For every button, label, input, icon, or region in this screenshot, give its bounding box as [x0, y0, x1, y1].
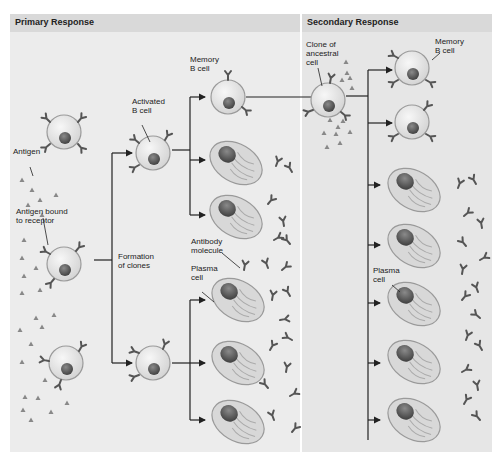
- memory-b-cell-secondary-label: Memory B cell: [435, 37, 464, 55]
- memory-b-cell-primary-label: Memory B cell: [190, 55, 219, 73]
- antigen-bound-b-cell: [41, 242, 84, 288]
- activated-b-cell-top: [130, 131, 172, 172]
- plasma-cell-secondary-label: Plasma cell: [373, 266, 400, 284]
- antibody-molecule-label: Antibody molecule: [191, 237, 223, 255]
- secondary-plasma-cell-4: [380, 332, 447, 393]
- clone-of-ancestral-cell-label: Clone of ancestral cell: [306, 40, 338, 67]
- antigen-label: Antigen: [13, 147, 40, 156]
- secondary-plasma-cell-1: [380, 160, 447, 221]
- plasma-cell-5: [204, 392, 271, 453]
- b-cell-response-diagram: [0, 0, 501, 458]
- plasma-cell-primary-label: Plasma cell: [191, 264, 218, 282]
- naive-b-cell-bottom: [40, 342, 86, 390]
- antibody-molecules-secondary: [455, 175, 489, 422]
- activated-b-cell-label: Activated B cell: [132, 97, 165, 115]
- activated-b-cell-bottom: [130, 340, 170, 381]
- memory-b-cell-primary: [211, 71, 251, 115]
- naive-b-cell-top: [41, 113, 86, 153]
- secondary-plasma-cell-5: [380, 390, 447, 451]
- formation-of-clones-label: Formation of clones: [118, 252, 154, 270]
- plasma-cell-1: [202, 133, 269, 194]
- antigen-bound-label: Antigen bound to receptor: [16, 207, 68, 225]
- memory-b-cell-secondary-1: [389, 51, 436, 87]
- memory-b-cell-secondary-2: [389, 101, 436, 141]
